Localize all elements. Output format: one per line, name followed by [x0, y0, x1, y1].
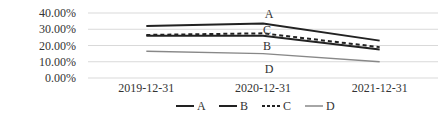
y-tick-label: 30.00% [39, 22, 76, 36]
legend-label-b: B [240, 99, 248, 113]
annotation-b: B [263, 39, 271, 53]
annotation-d: D [265, 62, 274, 76]
legend-label-c: C [283, 99, 291, 113]
chart-canvas: 0.00%10.00%20.00%30.00%40.00%2019-12-312… [0, 0, 440, 122]
x-tick-label: 2020-12-31 [235, 81, 291, 95]
x-tick-label: 2019-12-31 [118, 81, 174, 95]
x-tick-label: 2021-12-31 [352, 81, 408, 95]
y-tick-label: 0.00% [45, 71, 76, 85]
y-tick-label: 10.00% [39, 55, 76, 69]
line-chart: 0.00%10.00%20.00%30.00%40.00%2019-12-312… [0, 0, 440, 122]
legend-label-a: A [197, 99, 206, 113]
series-line-d [146, 51, 379, 62]
y-tick-label: 40.00% [39, 6, 76, 20]
y-tick-label: 20.00% [39, 39, 76, 53]
annotation-c: C [263, 23, 271, 37]
annotation-a: A [265, 7, 274, 21]
legend-label-d: D [326, 99, 335, 113]
